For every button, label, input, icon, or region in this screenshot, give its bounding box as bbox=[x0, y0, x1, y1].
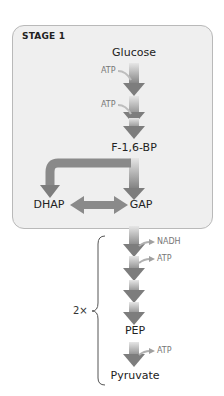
cofactor-atp-input-2: ATP bbox=[101, 100, 116, 109]
arrow-pep-pyruvate bbox=[123, 342, 145, 367]
arrow-split bbox=[40, 158, 145, 200]
metabolite-dhap: DHAP bbox=[34, 198, 65, 211]
arrow-dhap-gap-equilibrium bbox=[70, 196, 128, 214]
stage-label: STAGE 1 bbox=[22, 31, 65, 41]
arrow-gap-step2 bbox=[123, 256, 145, 281]
cofactor-atp-input-1: ATP bbox=[101, 66, 116, 75]
metabolite-f16bp: F-1,6-BP bbox=[111, 141, 157, 154]
cofactor-atp-output-1: ATP bbox=[157, 254, 172, 263]
metabolite-pep: PEP bbox=[125, 324, 145, 337]
cofactor-atp-output-2: ATP bbox=[157, 346, 172, 355]
multiplier-label: 2× bbox=[73, 305, 88, 316]
metabolite-glucose: Glucose bbox=[112, 46, 156, 59]
arrow-glucose-step3 bbox=[123, 118, 145, 139]
arrow-gap-step1 bbox=[123, 226, 145, 257]
cofactor-nadh-output: NADH bbox=[157, 237, 181, 246]
metabolite-pyruvate: Pyruvate bbox=[111, 369, 160, 382]
arrow-gap-step3 bbox=[123, 280, 145, 303]
atp-output-arrow-1 bbox=[139, 256, 155, 263]
arrow-glucose-step1 bbox=[123, 63, 145, 96]
arrow-gap-step4 bbox=[123, 302, 145, 325]
atp-output-arrow-2 bbox=[139, 348, 155, 355]
brace-2x bbox=[92, 236, 105, 385]
nadh-output-arrow bbox=[139, 239, 155, 246]
metabolite-gap: GAP bbox=[130, 198, 153, 211]
